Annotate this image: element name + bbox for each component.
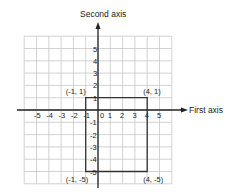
x-tick-label: -3 (59, 111, 66, 120)
y-tick-label: -1 (90, 118, 97, 127)
x-axis-label: First axis (189, 105, 223, 115)
x-tick-label: -5 (34, 111, 41, 120)
x-tick-label: 2 (120, 111, 124, 120)
y-axis-label: Second axis (80, 9, 126, 19)
y-tick-label: 4 (93, 57, 97, 66)
y-tick-label: 1 (93, 94, 97, 103)
y-tick-label: -4 (90, 155, 97, 164)
x-tick-label: 0 (100, 111, 104, 120)
y-tick-label: 3 (93, 69, 97, 78)
vertex-label: (4, -5) (143, 175, 164, 184)
y-tick-label: -2 (90, 131, 97, 140)
x-tick-label: -4 (46, 111, 53, 120)
x-tick-label: 4 (145, 111, 149, 120)
y-tick-label: -5 (90, 168, 97, 177)
vertex-label: (-1, 1) (66, 87, 87, 96)
x-tick-label: 3 (132, 111, 136, 120)
vertex-labels: (-1, 1)(4, 1)(4, -5)(-1, -5) (66, 87, 164, 184)
x-axis-arrow-icon (181, 108, 188, 113)
y-tick-label: 2 (93, 81, 97, 90)
y-tick-label: 5 (93, 45, 97, 54)
x-tick-label: 1 (108, 111, 112, 120)
x-tick-label: -1 (83, 111, 90, 120)
vertex-label: (4, 1) (143, 87, 161, 96)
x-tick-label: 5 (157, 111, 161, 120)
y-tick-label: -3 (90, 143, 97, 152)
coordinate-plane: -5-4-3-2-101234512345-1-2-3-4-5 (-1, 1)(… (0, 0, 238, 196)
vertex-label: (-1, -5) (66, 175, 89, 184)
axes (17, 22, 188, 188)
x-tick-label: -2 (71, 111, 78, 120)
y-axis-arrow-icon (96, 22, 101, 29)
